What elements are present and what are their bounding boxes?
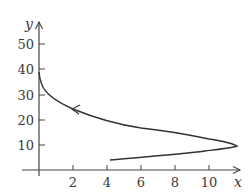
y-tick-label: 40 [17,62,34,77]
x-ticks [73,165,209,170]
y-tick-labels: 10 20 30 40 50 y [17,16,34,153]
y-tick-label: 30 [17,88,34,103]
chart: 2 4 6 8 10 x 10 20 30 40 50 y [0,0,249,195]
trajectory-curve [39,72,237,160]
y-tick-label: 20 [17,113,34,128]
y-tick-label: 10 [17,138,34,153]
y-tick-label: 50 [17,37,34,52]
x-tick-label: 4 [103,175,111,190]
x-tick-label: 6 [137,175,145,190]
y-ticks [39,44,45,145]
x-axis-label: x [234,174,242,190]
y-axis-label: y [24,16,34,32]
x-tick-label: 10 [201,175,218,190]
x-tick-label: 2 [69,175,77,190]
x-tick-label: 8 [171,175,179,190]
x-tick-labels: 2 4 6 8 10 x [69,174,242,190]
